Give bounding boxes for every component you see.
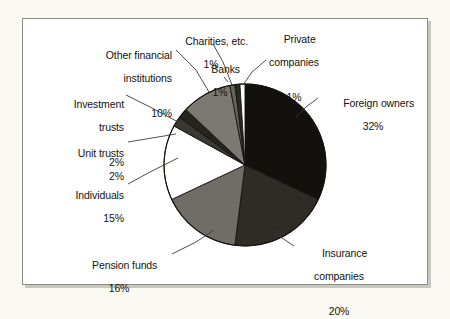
label-insurance-name2: companies [296,271,382,283]
label-pension-funds-pct: 16% [70,283,168,295]
label-other-financial-name2: institutions [62,73,172,85]
label-insurance-name: Insurance [322,247,367,259]
label-private-companies-name2: companies [256,57,332,69]
label-banks-name: Banks [211,63,240,75]
label-insurance-companies: Insurance companies 20% [296,236,382,319]
label-insurance-pct: 20% [296,306,382,318]
label-investment-trusts-name2: trusts [32,122,124,134]
label-banks-pct: 1% [194,87,246,99]
label-banks: Banks 1% [194,52,246,122]
label-private-companies-name: Private [284,33,316,45]
label-individuals-pct: 15% [28,213,124,225]
label-foreign-owners: Foreign owners 32% [320,86,426,156]
label-foreign-owners-pct: 32% [320,121,426,133]
label-unit-trusts-name: Unit trusts [78,147,124,159]
label-individuals-name: Individuals [75,189,124,201]
label-pension-funds: Pension funds 16% [70,248,168,318]
label-other-financial-name: Other financial [106,49,172,61]
label-pension-funds-name: Pension funds [92,259,157,271]
label-investment-trusts-name: Investment [74,98,124,110]
label-charities-name: Charities, etc. [185,35,248,47]
label-individuals: Individuals 15% [28,178,124,248]
label-foreign-owners-name: Foreign owners [343,97,414,109]
